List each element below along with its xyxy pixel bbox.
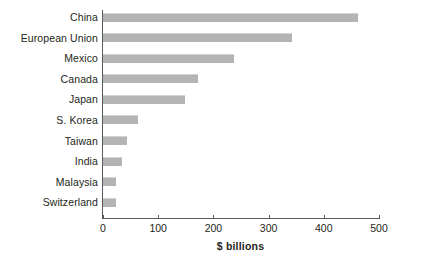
x-axis-title-text: $ billions — [217, 240, 265, 252]
category-label: Switzerland — [43, 197, 98, 208]
bar-row: Canada — [0, 72, 435, 93]
bar-track — [103, 115, 380, 124]
category-label: Canada — [61, 74, 98, 85]
x-tick-mark — [213, 215, 214, 219]
bar — [103, 198, 116, 207]
plot-area: ChinaEuropean UnionMexicoCanadaJapanS. K… — [0, 0, 435, 264]
category-label: China — [70, 12, 98, 23]
x-tick-mark — [158, 215, 159, 219]
category-label: Malaysia — [56, 177, 98, 188]
bar — [103, 74, 198, 83]
bar — [103, 33, 292, 42]
bar-track — [103, 157, 380, 166]
x-tick-label: 100 — [149, 222, 167, 234]
x-tick-label: 300 — [260, 222, 278, 234]
x-axis-title: $ billions — [0, 240, 435, 252]
x-tick-mark — [324, 215, 325, 219]
bar — [103, 115, 138, 124]
x-tick-label: 200 — [205, 222, 223, 234]
bar-track — [103, 177, 380, 186]
x-axis-ticks: 0100200300400500 — [0, 219, 435, 239]
bar-track — [103, 95, 380, 104]
bar-row: Taiwan — [0, 134, 435, 155]
bar-track — [103, 74, 380, 83]
bar-track — [103, 136, 380, 145]
bar-rows: ChinaEuropean UnionMexicoCanadaJapanS. K… — [0, 10, 435, 216]
category-label: Japan — [69, 94, 98, 105]
bar-row: Japan — [0, 92, 435, 113]
bar-chart: ChinaEuropean UnionMexicoCanadaJapanS. K… — [0, 0, 435, 264]
bar-row: Switzerland — [0, 195, 435, 216]
bar-row: Malaysia — [0, 175, 435, 196]
category-label: European Union — [21, 33, 98, 44]
bar-track — [103, 54, 380, 63]
bar-row: S. Korea — [0, 113, 435, 134]
category-label: Mexico — [64, 53, 98, 64]
bar — [103, 13, 358, 22]
x-tick-mark — [379, 215, 380, 219]
bar — [103, 54, 234, 63]
bar-track — [103, 198, 380, 207]
x-tick-label: 0 — [100, 222, 106, 234]
bar-track — [103, 33, 380, 42]
bar-row: China — [0, 10, 435, 31]
x-tick-label: 500 — [370, 222, 388, 234]
category-label: S. Korea — [56, 115, 98, 126]
bar — [103, 177, 116, 186]
bar-row: Mexico — [0, 51, 435, 72]
bar — [103, 157, 122, 166]
x-tick-mark — [269, 215, 270, 219]
bar — [103, 136, 127, 145]
category-label: India — [75, 156, 98, 167]
bar-row: India — [0, 154, 435, 175]
bar-row: European Union — [0, 31, 435, 52]
bar — [103, 95, 185, 104]
category-label: Taiwan — [65, 136, 98, 147]
bar-track — [103, 13, 380, 22]
x-tick-mark — [103, 215, 104, 219]
x-tick-label: 400 — [315, 222, 333, 234]
